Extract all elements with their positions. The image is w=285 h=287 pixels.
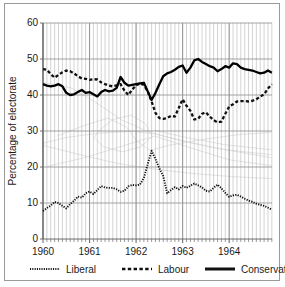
x-tick-label: 1961: [78, 246, 101, 257]
major-gridlines: [43, 23, 272, 239]
x-tick-label: 1962: [125, 246, 148, 257]
chart-canvas: 0102030405060 19601961196219631964 Perce…: [0, 0, 285, 287]
chart-page: 0102030405060 19601961196219631964 Perce…: [0, 0, 285, 287]
y-tick-label: 30: [27, 125, 39, 136]
y-tick-label: 20: [27, 161, 39, 172]
series-line-conservative: [43, 59, 272, 100]
x-tick-label: 1960: [32, 246, 55, 257]
legend-label-conservative: Conservative: [241, 264, 285, 275]
chart-legend: LiberalLabourConservative: [30, 264, 285, 275]
x-tick-label: 1963: [172, 246, 195, 257]
legend-label-liberal: Liberal: [66, 264, 96, 275]
y-axis-title: Percentage of electorate: [7, 76, 18, 185]
y-tick-label: 50: [27, 53, 39, 64]
series-line-labour: [43, 69, 272, 122]
line-chart-svg: 0102030405060 19601961196219631964 Perce…: [0, 0, 285, 287]
x-axis-ticks: 19601961196219631964: [32, 239, 272, 257]
y-axis-ticks: 0102030405060: [27, 17, 43, 244]
y-tick-label: 60: [27, 17, 39, 28]
y-tick-label: 40: [27, 89, 39, 100]
x-tick-label: 1964: [218, 246, 241, 257]
y-tick-label: 10: [27, 197, 39, 208]
y-tick-label: 0: [32, 233, 38, 244]
legend-label-labour: Labour: [158, 264, 190, 275]
series-line-liberal: [43, 151, 272, 211]
